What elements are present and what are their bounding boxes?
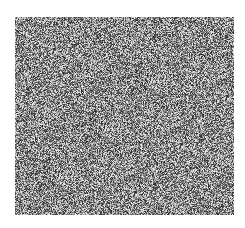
- image-frame: [0, 0, 245, 228]
- noise-field: [15, 17, 234, 215]
- noise-canvas: [15, 17, 234, 215]
